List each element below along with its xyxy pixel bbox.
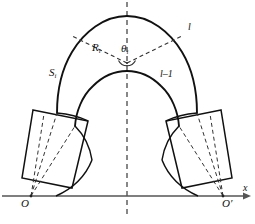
right-dashed-ray-edge xyxy=(210,114,223,196)
right-dashed-ray-inner xyxy=(179,126,223,196)
label-origin-right: O′ xyxy=(222,198,232,209)
left-dashed-ray-edge xyxy=(31,114,44,196)
diagram-canvas xyxy=(0,0,255,224)
label-angle: θi xyxy=(121,43,128,56)
right-wedge-group xyxy=(162,110,232,197)
right-wedge-outline xyxy=(166,110,232,188)
label-origin-left: O xyxy=(21,198,29,209)
label-radius: Ri xyxy=(92,42,101,55)
inner-arch-curve xyxy=(75,71,179,126)
left-wedge-group xyxy=(22,110,92,197)
radius-line-right xyxy=(127,36,182,63)
left-dashed-ray-inner xyxy=(31,126,75,196)
left-wedge-outline xyxy=(22,110,88,188)
label-arc-length: Si xyxy=(49,67,56,80)
label-segment-outer: l xyxy=(188,22,191,32)
arch-diagram: Ri θi Si l l–1 O O′ x xyxy=(0,0,255,224)
vertex-point xyxy=(126,62,128,64)
label-segment-inner: l–1 xyxy=(160,69,173,79)
x-axis-arrowhead xyxy=(243,193,251,200)
left-origin-point xyxy=(30,195,33,198)
label-axis-x: x xyxy=(243,183,247,193)
